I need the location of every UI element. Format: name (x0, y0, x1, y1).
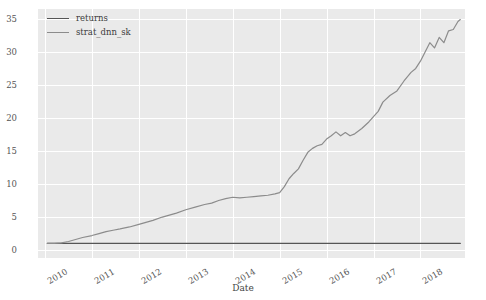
chart-figure: 05101520253035 2010201120122013201420152… (0, 0, 486, 300)
plot-area (38, 9, 465, 258)
legend-label: returns (76, 14, 108, 23)
y-tick-label: 20 (6, 113, 17, 123)
legend-label: strat_dnn_sk (76, 28, 131, 37)
chart-legend: returnsstrat_dnn_sk (47, 14, 131, 37)
y-tick-label: 35 (6, 14, 17, 24)
legend-item: strat_dnn_sk (47, 28, 131, 37)
y-tick-label: 15 (6, 146, 17, 156)
legend-line-icon (47, 18, 69, 19)
y-tick-label: 0 (12, 245, 17, 255)
y-tick-label: 5 (12, 212, 17, 222)
x-axis-label: Date (0, 283, 486, 293)
legend-line-icon (47, 32, 69, 33)
y-tick-label: 10 (6, 179, 17, 189)
y-tick-label: 30 (6, 47, 17, 57)
legend-item: returns (47, 14, 131, 23)
series-container (38, 9, 465, 258)
y-tick-label: 25 (6, 80, 17, 90)
series-line-strat_dnn_sk (47, 20, 460, 244)
